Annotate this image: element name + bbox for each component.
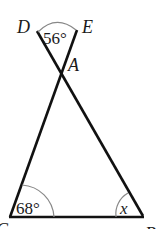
- point-label-e: E: [81, 17, 93, 37]
- angle-label-x: x: [119, 199, 128, 218]
- point-label-b: B: [145, 224, 156, 229]
- angle-label-68: 68°: [16, 199, 40, 218]
- point-label-c: C: [0, 220, 9, 229]
- diagram-canvas: D E A C B 56° 68° x: [0, 0, 163, 229]
- geometry-diagram: D E A C B 56° 68° x: [0, 0, 163, 229]
- segment-db: [37, 31, 143, 216]
- point-label-a: A: [67, 55, 80, 75]
- point-label-d: D: [16, 17, 30, 37]
- segment-ec: [10, 30, 77, 217]
- angle-label-56: 56°: [43, 29, 67, 48]
